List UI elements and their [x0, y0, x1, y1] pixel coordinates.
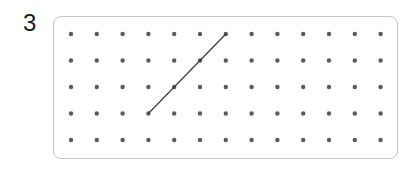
grid-dot[interactable]: [146, 85, 150, 89]
grid-dot[interactable]: [224, 85, 228, 89]
grid-dot[interactable]: [172, 111, 176, 115]
grid-dot[interactable]: [120, 138, 124, 142]
grid-dot[interactable]: [378, 58, 382, 62]
grid-dot[interactable]: [353, 32, 357, 36]
grid-dot[interactable]: [224, 138, 228, 142]
grid-dot[interactable]: [172, 58, 176, 62]
grid-dot[interactable]: [172, 32, 176, 36]
grid-dot[interactable]: [301, 32, 305, 36]
grid-dot[interactable]: [69, 32, 73, 36]
grid-dot[interactable]: [275, 138, 279, 142]
grid-dot[interactable]: [275, 85, 279, 89]
grid-dot[interactable]: [95, 111, 99, 115]
grid-dot[interactable]: [172, 138, 176, 142]
grid-dot[interactable]: [249, 111, 253, 115]
grid-dot[interactable]: [198, 32, 202, 36]
grid-dot[interactable]: [120, 111, 124, 115]
grid-dot[interactable]: [95, 138, 99, 142]
grid-dot[interactable]: [95, 32, 99, 36]
dot-grid[interactable]: [0, 0, 420, 169]
grid-dot[interactable]: [146, 32, 150, 36]
grid-dot[interactable]: [353, 111, 357, 115]
grid-dot[interactable]: [249, 32, 253, 36]
grid-dot[interactable]: [301, 138, 305, 142]
grid-dot[interactable]: [224, 111, 228, 115]
grid-dot[interactable]: [275, 32, 279, 36]
grid-dot[interactable]: [353, 58, 357, 62]
grid-dots: [69, 32, 383, 142]
grid-dot[interactable]: [378, 85, 382, 89]
grid-dot[interactable]: [327, 111, 331, 115]
grid-dot[interactable]: [249, 85, 253, 89]
grid-dot[interactable]: [275, 111, 279, 115]
drawn-segments: [148, 34, 225, 114]
grid-dot[interactable]: [327, 32, 331, 36]
grid-dot[interactable]: [301, 111, 305, 115]
grid-dot[interactable]: [198, 138, 202, 142]
grid-dot[interactable]: [95, 85, 99, 89]
grid-dot[interactable]: [120, 32, 124, 36]
grid-dot[interactable]: [275, 58, 279, 62]
grid-dot[interactable]: [198, 85, 202, 89]
grid-dot[interactable]: [327, 85, 331, 89]
grid-dot[interactable]: [120, 85, 124, 89]
grid-dot[interactable]: [69, 111, 73, 115]
grid-dot[interactable]: [353, 138, 357, 142]
grid-dot[interactable]: [69, 138, 73, 142]
grid-dot[interactable]: [378, 138, 382, 142]
grid-dot[interactable]: [146, 138, 150, 142]
grid-dot[interactable]: [301, 58, 305, 62]
grid-dot[interactable]: [224, 58, 228, 62]
grid-dot[interactable]: [120, 58, 124, 62]
grid-dot[interactable]: [146, 58, 150, 62]
grid-dot[interactable]: [249, 58, 253, 62]
grid-dot[interactable]: [327, 138, 331, 142]
grid-dot[interactable]: [378, 111, 382, 115]
grid-dot[interactable]: [198, 111, 202, 115]
grid-dot[interactable]: [301, 85, 305, 89]
grid-dot[interactable]: [327, 58, 331, 62]
grid-dot[interactable]: [378, 32, 382, 36]
line-segment: [148, 34, 225, 114]
grid-dot[interactable]: [249, 138, 253, 142]
grid-dot[interactable]: [353, 85, 357, 89]
grid-dot[interactable]: [69, 85, 73, 89]
grid-dot[interactable]: [69, 58, 73, 62]
grid-dot[interactable]: [95, 58, 99, 62]
